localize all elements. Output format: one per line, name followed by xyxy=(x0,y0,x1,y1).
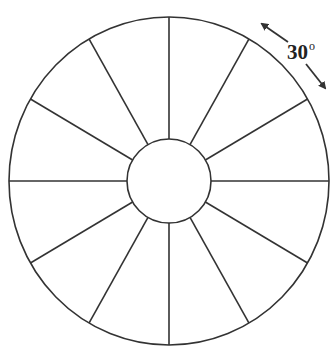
spoke-line xyxy=(89,217,148,323)
spoke-line xyxy=(89,39,148,145)
spoke-line xyxy=(30,99,132,160)
spoke-line xyxy=(190,39,249,145)
spoke-line xyxy=(30,202,132,263)
arrow-ccw-icon xyxy=(262,24,288,42)
angle-label: 30o xyxy=(287,42,315,63)
arrow-cw-icon xyxy=(306,64,325,88)
angle-value: 30 xyxy=(287,40,308,64)
spoke-line xyxy=(205,99,307,160)
spoke-line xyxy=(205,202,307,263)
spoke-line xyxy=(190,217,249,323)
degree-symbol: o xyxy=(309,39,315,53)
segmented-wheel-diagram xyxy=(0,0,336,351)
inner-circle xyxy=(127,139,211,223)
